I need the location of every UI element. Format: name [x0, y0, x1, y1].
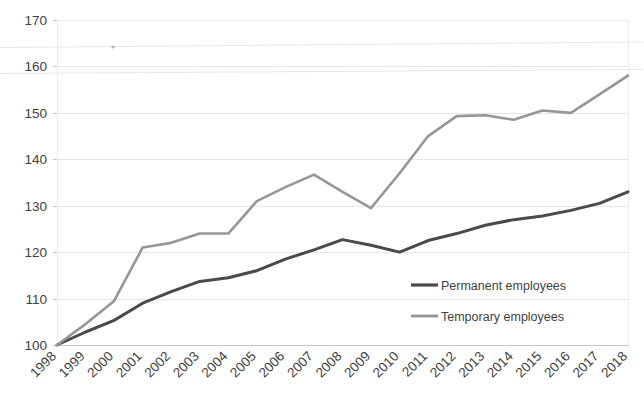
y-tick-label-170: 170	[24, 13, 47, 28]
y-tick-label-100: 100	[24, 338, 47, 353]
legend-label: Permanent employees	[441, 279, 566, 293]
y-tick-label-150: 150	[24, 106, 47, 121]
chart-background	[0, 0, 644, 403]
line-chart: 100110120130140150160170 199819992000200…	[0, 0, 644, 403]
y-tick-label-140: 140	[24, 152, 47, 167]
speck-artifact	[111, 45, 114, 48]
y-tick-label-160: 160	[24, 59, 47, 74]
chart-canvas: 100110120130140150160170 199819992000200…	[0, 0, 644, 403]
y-tick-label-130: 130	[24, 199, 47, 214]
legend-label: Temporary employees	[441, 310, 564, 324]
y-tick-label-120: 120	[24, 245, 47, 260]
y-tick-label-110: 110	[25, 292, 47, 307]
